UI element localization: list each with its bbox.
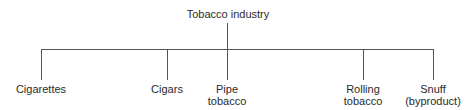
leaf-node-pipe-tobacco: Pipe tobacco	[182, 83, 272, 107]
leaf-node-cigarettes: Cigarettes	[0, 83, 86, 95]
leaf-label-line1: Pipe	[182, 83, 272, 95]
horizontal-branch-connector	[41, 49, 434, 50]
leaf-label-line1: Snuff	[388, 83, 476, 95]
drop-connector-cigars	[167, 49, 168, 80]
drop-connector-snuff	[433, 49, 434, 80]
leaf-label-line2: tobacco	[182, 95, 272, 107]
leaf-label-line2: (byproduct)	[388, 95, 476, 107]
drop-connector-pipe-tobacco	[227, 49, 228, 80]
leaf-label-line1: Cigarettes	[0, 83, 86, 95]
leaf-node-snuff: Snuff (byproduct)	[388, 83, 476, 107]
root-stem-connector	[227, 23, 228, 50]
drop-connector-rolling-tobacco	[363, 49, 364, 80]
root-node-tobacco-industry: Tobacco industry	[0, 8, 456, 21]
drop-connector-cigarettes	[41, 49, 42, 80]
